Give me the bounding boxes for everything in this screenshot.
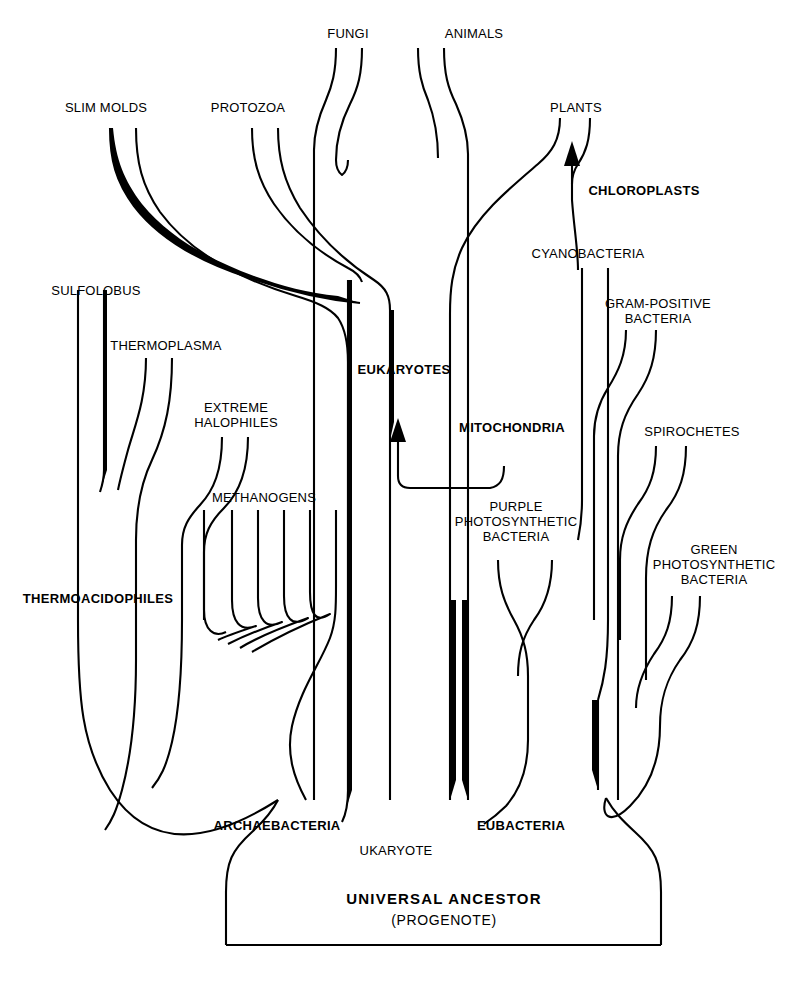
label-plants: PLANTS [550,100,602,115]
branch-animals [336,48,468,800]
tree-branch-graphic [0,0,787,987]
label-slim-molds: SLIM MOLDS [65,100,147,115]
label-animals: ANIMALS [445,26,503,41]
label-thermoplasma: THERMOPLASMA [110,338,221,353]
label-eubacteria: EUBACTERIA [477,818,565,833]
branch-sulfolobus [78,290,278,834]
label-protozoa: PROTOZOA [211,100,285,115]
label-spirochetes: SPIROCHETES [644,424,739,439]
label-extreme-halophiles: EXTREME HALOPHILES [194,400,278,430]
branch-purple-photosynthetic-bacteria [484,560,552,824]
label-methanogens: METHANOGENS [212,490,316,505]
label-green-photosynthetic-bacteria: GREEN PHOTOSYNTHETIC BACTERIA [653,542,775,587]
label-gram-positive-bacteria: GRAM-POSITIVE BACTERIA [605,296,711,326]
branch-methanogens [204,510,336,800]
label-progenote: (PROGENOTE) [391,913,496,928]
label-archaebacteria: ARCHAEBACTERIA [214,818,341,833]
label-eukaryotes: EUKARYOTES [358,362,451,377]
label-fungi: FUNGI [327,26,368,41]
branch-fungi [314,48,362,800]
label-ukaryote: UKARYOTE [360,843,433,858]
label-chloroplasts: CHLOROPLASTS [588,183,699,198]
label-mitochondria: MITOCHONDRIA [459,420,565,435]
branch-plants [450,118,590,800]
label-thermoacidophiles: THERMOACIDOPHILES [23,591,173,606]
label-universal-ancestor: UNIVERSAL ANCESTOR [346,890,542,908]
phylogenetic-tree-figure: FUNGI ANIMALS SLIM MOLDS PROTOZOA PLANTS… [0,0,787,987]
label-cyanobacteria: CYANOBACTERIA [532,246,645,261]
branch-slim-molds [110,128,360,362]
label-purple-photosynthetic-bacteria: PURPLE PHOTOSYNTHETIC BACTERIA [455,499,577,544]
branch-ukaryote-stem [348,362,390,800]
label-sulfolobus: SULFOLOBUS [51,283,140,298]
